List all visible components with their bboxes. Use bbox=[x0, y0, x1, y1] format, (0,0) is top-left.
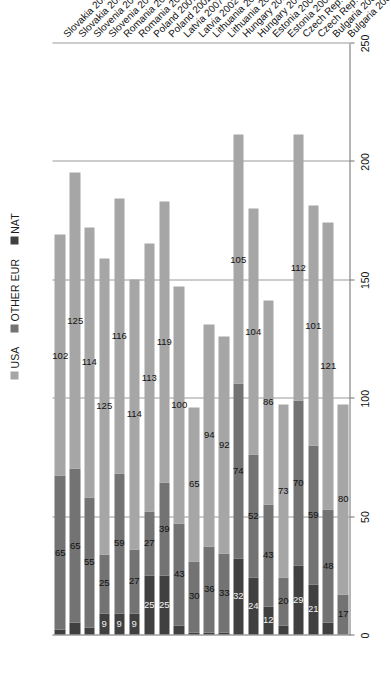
bar-row: 2527113 bbox=[144, 243, 154, 634]
bar-segment-usa: 114 bbox=[129, 279, 139, 549]
bar-row: 927114 bbox=[129, 279, 139, 634]
bar-row: 2970112 bbox=[293, 134, 303, 634]
category-axis-line bbox=[349, 43, 350, 635]
bar-segment-nat: 5 bbox=[322, 622, 332, 634]
bar-value-label: 70 bbox=[293, 478, 304, 488]
bar-segment-nat: 12 bbox=[263, 606, 273, 634]
bar-segment-usa: 101 bbox=[308, 205, 318, 444]
bar-value-label: 74 bbox=[233, 466, 244, 476]
bar-value-label: 125 bbox=[96, 401, 112, 411]
bar-value-label: 9 bbox=[116, 619, 121, 629]
bar-value-label: 105 bbox=[230, 254, 246, 264]
bar-segment-usa: 80 bbox=[337, 404, 347, 593]
bar-segment-usa: 105 bbox=[233, 134, 243, 383]
bar-series-container: 2651025651253551149251259591169271142527… bbox=[52, 43, 349, 634]
bar-value-label: 80 bbox=[337, 494, 348, 504]
bar-value-label: 86 bbox=[263, 397, 274, 407]
bar-segment-usa: 86 bbox=[263, 300, 273, 504]
bar-row: 959116 bbox=[114, 198, 124, 634]
legend-label: USA bbox=[8, 346, 20, 368]
bar-value-label: 27 bbox=[144, 538, 155, 548]
bar-value-label: 32 bbox=[233, 591, 244, 601]
bar-value-label: 30 bbox=[188, 591, 199, 601]
bar-value-label: 36 bbox=[203, 584, 214, 594]
bar-segment-usa: 92 bbox=[218, 336, 228, 554]
legend-swatch-icon bbox=[10, 236, 18, 244]
bar-segment-other-eur: 70 bbox=[293, 400, 303, 566]
legend-swatch-icon bbox=[10, 324, 18, 332]
bar-value-label: 65 bbox=[54, 548, 65, 558]
bar-segment-other-eur: 36 bbox=[203, 546, 213, 631]
bar-segment-nat: 2 bbox=[54, 629, 64, 634]
bar-segment-usa: 125 bbox=[99, 258, 109, 554]
bar-value-label: 59 bbox=[114, 538, 125, 548]
bar-value-label: 92 bbox=[218, 440, 229, 450]
bar-segment-usa: 102 bbox=[54, 234, 64, 476]
bar-segment-nat: 21 bbox=[308, 584, 318, 634]
bar-value-label: 94 bbox=[203, 430, 214, 440]
bar-row: 2452104 bbox=[248, 208, 258, 634]
bar-value-label: 33 bbox=[218, 588, 229, 598]
bar-segment-nat: 3 bbox=[84, 627, 94, 634]
bar-value-label: 101 bbox=[305, 320, 321, 330]
bar-value-label: 112 bbox=[290, 262, 305, 272]
bar-segment-nat: 9 bbox=[114, 613, 124, 634]
bar-segment-nat: 29 bbox=[293, 565, 303, 634]
axis-tick-label: 200 bbox=[358, 153, 370, 171]
bar-segment-nat: 9 bbox=[99, 613, 109, 634]
bar-row: 443100 bbox=[173, 286, 183, 634]
bar-value-label: 27 bbox=[129, 576, 140, 586]
bar-segment-usa: 73 bbox=[278, 404, 288, 577]
bar-segment-other-eur: 27 bbox=[129, 549, 139, 613]
bar-segment-other-eur: 20 bbox=[278, 577, 288, 624]
bar-row: 13694 bbox=[203, 324, 213, 634]
value-axis-line bbox=[52, 634, 350, 635]
bar-value-label: 73 bbox=[278, 486, 289, 496]
bar-row: 13065 bbox=[188, 407, 198, 634]
axis-tick-label: 150 bbox=[358, 271, 370, 289]
bar-segment-other-eur: 65 bbox=[69, 468, 79, 622]
bar-value-label: 9 bbox=[131, 619, 136, 629]
bar-segment-usa: 114 bbox=[84, 227, 94, 497]
bar-row: 3274105 bbox=[233, 134, 243, 634]
bar-segment-usa: 125 bbox=[69, 172, 79, 468]
bar-value-label: 29 bbox=[293, 595, 304, 605]
bar-value-label: 17 bbox=[337, 609, 348, 619]
bar-value-label: 100 bbox=[171, 400, 187, 410]
bar-row: 2539119 bbox=[159, 201, 169, 634]
bar-row: 124386 bbox=[263, 300, 273, 634]
bar-segment-usa: 119 bbox=[159, 201, 169, 483]
bar-segment-nat: 5 bbox=[69, 622, 79, 634]
bar-value-label: 119 bbox=[156, 337, 171, 347]
bar-row: 925125 bbox=[99, 258, 109, 634]
axis-tick bbox=[350, 42, 354, 43]
bar-segment-other-eur: 33 bbox=[218, 554, 228, 632]
chart-legend: USAOTHER EURNAT bbox=[8, 213, 20, 379]
bar-segment-other-eur: 25 bbox=[99, 554, 109, 613]
bar-value-label: 21 bbox=[307, 604, 318, 614]
bar-segment-usa: 113 bbox=[144, 243, 154, 511]
legend-item-usa: USA bbox=[8, 346, 20, 379]
bar-value-label: 59 bbox=[307, 510, 318, 520]
bar-segment-other-eur: 43 bbox=[173, 523, 183, 625]
bar-segment-nat: 25 bbox=[144, 575, 154, 634]
bar-segment-other-eur: 59 bbox=[308, 445, 318, 585]
bar-segment-nat: 4 bbox=[278, 625, 288, 634]
bar-segment-usa: 100 bbox=[173, 286, 183, 523]
bar-value-label: 25 bbox=[158, 600, 169, 610]
bar-value-label: 24 bbox=[248, 601, 259, 611]
bar-segment-usa: 116 bbox=[114, 198, 124, 473]
axis-tick-label: 0 bbox=[358, 632, 370, 638]
bar-segment-usa: 112 bbox=[293, 134, 303, 399]
bar-segment-other-eur: 39 bbox=[159, 482, 169, 574]
bar-value-label: 116 bbox=[111, 331, 126, 341]
bar-value-label: 25 bbox=[99, 578, 110, 588]
bar-segment-nat: 32 bbox=[233, 558, 243, 634]
bar-segment-other-eur: 55 bbox=[84, 497, 94, 627]
axis-tick bbox=[350, 160, 354, 161]
bar-value-label: 9 bbox=[101, 619, 106, 629]
plot-area: 2651025651253551149251259591169271142527… bbox=[52, 43, 350, 635]
bar-segment-nat: 24 bbox=[248, 577, 258, 634]
bar-segment-other-eur: 30 bbox=[188, 561, 198, 632]
bar-value-label: 114 bbox=[126, 409, 141, 419]
